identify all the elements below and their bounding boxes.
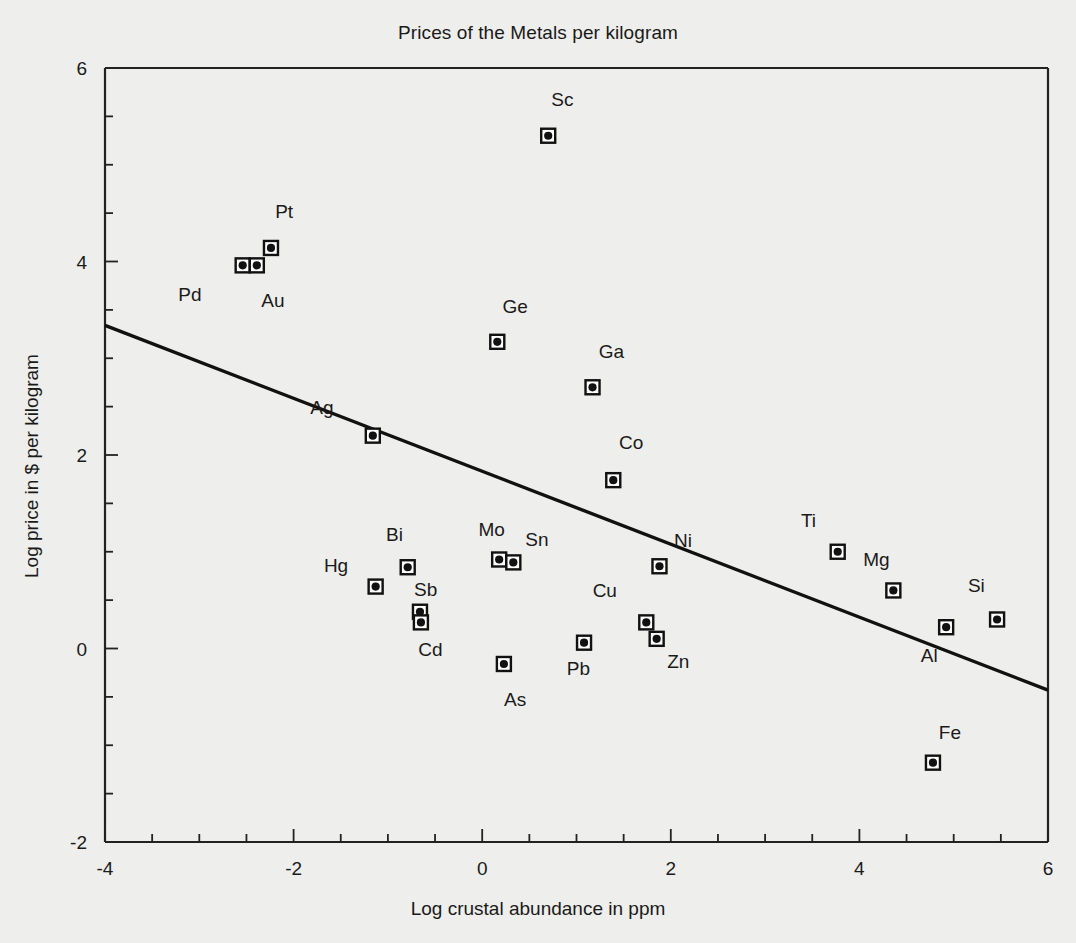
- marker-dot: [509, 558, 517, 566]
- marker-dot: [929, 759, 937, 767]
- x-axis-label: Log crustal abundance in ppm: [0, 898, 1076, 920]
- marker-dot: [834, 548, 842, 556]
- point-label-zn: Zn: [667, 651, 689, 672]
- axis-tick-labels: -4-20246-20246: [70, 58, 1053, 879]
- point-label-si: Si: [968, 575, 985, 596]
- data-point-zn: Zn: [650, 632, 690, 672]
- point-label-bi: Bi: [386, 524, 403, 545]
- marker-dot: [942, 623, 950, 631]
- marker-dot: [609, 476, 617, 484]
- data-point-ga: Ga: [586, 341, 625, 395]
- svg-text:2: 2: [666, 858, 677, 879]
- point-label-as: As: [504, 689, 526, 710]
- point-label-al: Al: [921, 645, 938, 666]
- marker-dot: [588, 383, 596, 391]
- point-label-mg: Mg: [863, 549, 889, 570]
- data-point-pt: Pt: [264, 201, 294, 255]
- marker-dot: [369, 432, 377, 440]
- point-label-cu: Cu: [593, 580, 617, 601]
- point-label-ni: Ni: [674, 530, 692, 551]
- point-label-pb: Pb: [567, 658, 590, 679]
- data-points: ScPtPdAuGeGaCoAgTiMoSnBiNiHgMgSiCuSbCdAl…: [178, 89, 1004, 770]
- svg-text:4: 4: [76, 252, 87, 273]
- point-label-sn: Sn: [525, 529, 548, 550]
- svg-text:6: 6: [76, 58, 87, 79]
- marker-dot: [495, 555, 503, 563]
- scatter-plot: -4-20246-20246 ScPtPdAuGeGaCoAgTiMoSnBiN…: [0, 0, 1076, 943]
- data-point-as: As: [497, 657, 526, 710]
- chart-figure: Prices of the Metals per kilogram -4-202…: [0, 0, 1076, 943]
- svg-text:-2: -2: [70, 832, 87, 853]
- svg-text:0: 0: [477, 858, 488, 879]
- svg-text:2: 2: [76, 445, 87, 466]
- point-label-co: Co: [619, 432, 643, 453]
- marker-dot: [493, 338, 501, 346]
- data-point-mo: Mo: [478, 519, 506, 567]
- point-label-cd: Cd: [418, 639, 442, 660]
- svg-text:-4: -4: [97, 858, 114, 879]
- marker-dot: [655, 562, 663, 570]
- svg-text:-2: -2: [285, 858, 302, 879]
- data-point-ti: Ti: [801, 510, 845, 559]
- marker-dot: [500, 660, 508, 668]
- data-point-pd: Pd: [178, 258, 249, 305]
- data-point-au: Au: [250, 258, 285, 311]
- marker-dot: [889, 586, 897, 594]
- data-point-cu: Cu: [593, 580, 654, 629]
- data-point-fe: Fe: [926, 722, 961, 770]
- data-point-sn: Sn: [506, 529, 548, 569]
- data-point-ge: Ge: [490, 296, 528, 349]
- data-point-mg: Mg: [863, 549, 900, 597]
- point-label-au: Au: [261, 290, 284, 311]
- point-label-pt: Pt: [275, 201, 294, 222]
- marker-dot: [544, 132, 552, 140]
- data-point-bi: Bi: [386, 524, 415, 574]
- marker-dot: [404, 563, 412, 571]
- point-label-pd: Pd: [178, 284, 201, 305]
- data-point-co: Co: [606, 432, 643, 487]
- point-label-sb: Sb: [414, 579, 437, 600]
- plot-axes: [105, 68, 1048, 842]
- data-point-si: Si: [968, 575, 1004, 627]
- marker-dot: [372, 582, 380, 590]
- data-point-sb: Sb: [413, 579, 437, 619]
- marker-dot: [267, 244, 275, 252]
- point-label-hg: Hg: [324, 555, 348, 576]
- point-label-ag: Ag: [310, 397, 333, 418]
- data-point-cd: Cd: [414, 615, 443, 659]
- svg-text:6: 6: [1043, 858, 1054, 879]
- point-label-fe: Fe: [939, 722, 961, 743]
- point-label-sc: Sc: [551, 89, 573, 110]
- svg-text:4: 4: [854, 858, 865, 879]
- marker-dot: [580, 639, 588, 647]
- point-label-mo: Mo: [478, 519, 504, 540]
- point-label-ti: Ti: [801, 510, 816, 531]
- point-label-ga: Ga: [599, 341, 625, 362]
- data-point-sc: Sc: [541, 89, 573, 143]
- axis-ticks: [105, 68, 1048, 842]
- y-axis-label: Log price in $ per kilogram: [21, 266, 43, 666]
- marker-dot: [239, 261, 247, 269]
- marker-dot: [417, 618, 425, 626]
- point-label-ge: Ge: [503, 296, 528, 317]
- marker-dot: [993, 615, 1001, 623]
- data-point-pb: Pb: [567, 636, 591, 679]
- svg-text:0: 0: [76, 639, 87, 660]
- marker-dot: [253, 261, 261, 269]
- marker-dot: [642, 618, 650, 626]
- marker-dot: [653, 635, 661, 643]
- data-point-hg: Hg: [324, 555, 383, 593]
